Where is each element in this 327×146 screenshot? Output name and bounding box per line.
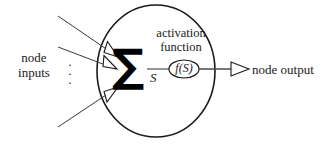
activation-label-line2: function [147,40,215,54]
activation-label-line1: activation [147,26,215,40]
input-ellipsis: · · · [66,60,74,87]
summation-sigma-symbol: ∑ [112,43,144,88]
transfer-function-label: f(S) [170,61,198,75]
sum-variable-label: S [150,71,157,85]
neural-node-diagram: node inputs · · · ∑ S activation functio… [0,0,327,146]
output-arrowhead-icon [231,62,249,76]
activation-function-label: activation function [147,26,215,54]
node-inputs-line2: inputs [8,65,60,80]
node-inputs-label: node inputs [8,50,60,80]
ellipsis-dot-3: · [66,78,74,87]
node-inputs-line1: node [8,50,60,65]
node-output-label: node output [252,62,314,77]
